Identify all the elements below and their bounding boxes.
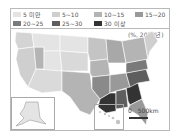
legend-swatch <box>94 21 102 26</box>
legend-item-25-30: 25~30 <box>52 20 82 27</box>
legend-swatch <box>135 12 143 17</box>
legend-label: 10~15 <box>104 11 124 18</box>
region-minnesota-iowa <box>88 37 108 61</box>
region-nevada <box>34 47 44 69</box>
legend-label: 5 미만 <box>23 11 41 18</box>
legend-item-under-5: 5 미만 <box>13 11 41 18</box>
region-missouri <box>90 59 110 77</box>
legend-label: 5~10 <box>62 11 78 18</box>
legend-label: 30 이상 <box>104 20 126 27</box>
legend-item-10-15: 10~15 <box>94 11 124 18</box>
legend-swatch <box>13 12 21 17</box>
region-washington-oregon <box>15 32 34 49</box>
alaska-shape <box>12 98 54 129</box>
legend-swatch <box>94 12 102 17</box>
legend-item-30-plus: 30 이상 <box>94 20 126 27</box>
legend-swatch <box>52 21 60 26</box>
legend: 5 미만 5~10 10~15 15~20 20~25 25~30 30 이상 <box>10 8 170 29</box>
legend-item-5-10: 5~10 <box>52 11 78 18</box>
region-northeast <box>122 37 148 63</box>
hawaii-shape <box>95 105 123 129</box>
region-utah-wyoming <box>44 51 62 71</box>
region-nebraska-kansas <box>60 51 88 71</box>
legend-item-15-20: 15~20 <box>135 11 165 18</box>
hawaii-inset <box>94 104 124 130</box>
scale-label: 0 500km <box>128 107 159 114</box>
alaska-inset <box>11 97 55 130</box>
legend-label: 15~20 <box>145 11 165 18</box>
scale-zero: 0 <box>128 107 132 114</box>
scale-bar <box>129 117 148 119</box>
legend-label: 25~30 <box>62 20 82 27</box>
legend-item-20-25: 20~25 <box>13 20 43 27</box>
legend-swatch <box>13 21 21 26</box>
scale-distance: 500km <box>138 107 159 114</box>
region-dakotas <box>60 35 88 53</box>
legend-swatch <box>52 12 60 17</box>
legend-label: 20~25 <box>23 20 43 27</box>
